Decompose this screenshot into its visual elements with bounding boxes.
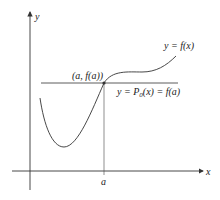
point-label: (a, f(a)) <box>72 70 104 82</box>
curve-label: y = f(x) <box>163 40 195 52</box>
x-axis-label: x <box>205 166 211 177</box>
line-label: y = P0(x) = f(a) <box>116 86 181 99</box>
tick-label-a: a <box>101 176 106 187</box>
y-axis-label: y <box>34 11 40 22</box>
point-a-fa <box>102 81 105 84</box>
function-curve <box>40 56 176 147</box>
diagram-canvas: y x a (a, f(a)) y = f(x) y = P0(x) = f(a… <box>0 0 220 200</box>
function-constant-approximation-diagram: y x a (a, f(a)) y = f(x) y = P0(x) = f(a… <box>0 0 220 200</box>
